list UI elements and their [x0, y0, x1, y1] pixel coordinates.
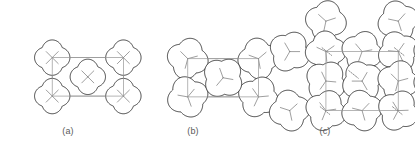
panel-a [8, 28, 133, 118]
lattice-group [167, 38, 279, 117]
panel-a-drawing [8, 28, 133, 118]
panel-c [274, 4, 414, 122]
lattice-group [35, 40, 142, 114]
panel-a-caption: (a) [48, 126, 88, 136]
molecule [269, 90, 310, 131]
lattice-group [269, 1, 415, 131]
panel-c-caption: (c) [305, 126, 345, 136]
panel-b-caption: (b) [173, 126, 213, 136]
panel-b [140, 26, 268, 120]
molecule [70, 59, 105, 94]
figure-canvas: (a) (b) (c) [0, 0, 415, 152]
molecule [270, 32, 309, 71]
panel-c-drawing [274, 4, 414, 122]
panel-b-drawing [140, 26, 268, 120]
molecule [205, 59, 242, 96]
